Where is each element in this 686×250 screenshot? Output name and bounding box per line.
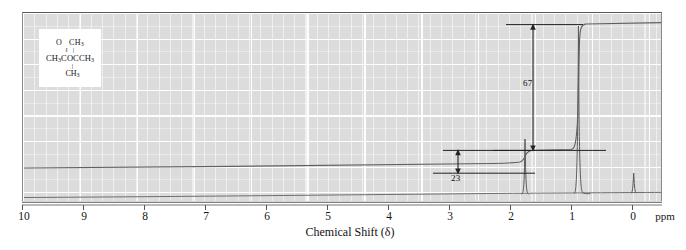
x-axis: 10 9 8 7 6 5 4 3 2 1 0 ppm Chemical Shif… [0, 201, 686, 250]
spectrum-traces [23, 13, 662, 201]
integral-label-23: 23 [451, 173, 460, 183]
structure-bottom-methyl: CH3 [60, 70, 79, 78]
peak-tms-0ppm [631, 173, 636, 193]
axis-tick-9: 9 [81, 210, 87, 222]
structure-oxygen-label: O [56, 39, 62, 47]
axis-tick-5: 5 [325, 210, 331, 222]
integration-trace [24, 23, 662, 168]
structure-main-chain: CH3COCCH3 [46, 54, 94, 63]
spectrum-plot-area [22, 12, 662, 201]
spectrum-baseline [24, 192, 662, 197]
axis-tick-0: 0 [630, 210, 636, 222]
nmr-spectrum-figure: O CH3 ‖ | CH3COCCH3 | CH3 23 67 [0, 0, 686, 250]
axis-tick-1: 1 [569, 210, 575, 222]
axis-tick-2: 2 [508, 210, 514, 222]
axis-tick-8: 8 [142, 210, 148, 222]
structure-top-row: O CH3 [56, 39, 84, 47]
axis-tick-10: 10 [18, 210, 30, 222]
axis-tick-6: 6 [264, 210, 270, 222]
molecule-structure-inset: O CH3 ‖ | CH3COCCH3 | CH3 [39, 29, 101, 87]
integral-label-67: 67 [523, 78, 532, 88]
axis-unit-label: ppm [655, 210, 675, 222]
axis-tick-7: 7 [203, 210, 209, 222]
axis-title: Chemical Shift (δ) [306, 225, 395, 240]
peak-tbutyl-1p14 [574, 26, 591, 194]
structure-top-methyl: CH3 [69, 39, 84, 47]
axis-tick-3: 3 [447, 210, 453, 222]
structure-chain-text: CH3COCCH3 [46, 54, 94, 63]
structure-bottom-methyl-text: CH3 [65, 70, 79, 78]
axis-tick-4: 4 [386, 210, 392, 222]
peak-methyl-2p10 [522, 139, 529, 194]
axis-line-and-ticks [0, 201, 686, 217]
